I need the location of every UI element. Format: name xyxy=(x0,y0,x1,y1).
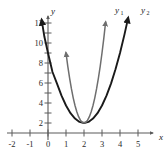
x-axis: -2 -1 0 1 2 3 4 5 x xyxy=(7,130,163,150)
x-tick-label: 3 xyxy=(100,139,104,149)
x-tick-label: 2 xyxy=(82,139,86,149)
parabola-chart: -2 -1 0 1 2 3 4 5 x xyxy=(0,0,167,152)
curve-y2-label-sub: 2 xyxy=(147,10,150,16)
x-tick-label: -2 xyxy=(8,139,15,149)
chart-canvas: -2 -1 0 1 2 3 4 5 x xyxy=(0,0,167,152)
y-tick-label: 4 xyxy=(39,98,44,108)
curve-y1-label-text: y xyxy=(114,5,119,15)
x-tick-label: 4 xyxy=(118,139,123,149)
curve-y1-label: y 1 xyxy=(114,5,124,16)
y-axis-label: y xyxy=(50,6,55,16)
x-tick-label: 0 xyxy=(46,139,50,149)
curve-y1-label-sub: 1 xyxy=(121,10,124,16)
y-tick-label: 10 xyxy=(35,38,44,48)
curve-y2-label: y 2 xyxy=(140,5,150,16)
y-tick-label: 6 xyxy=(39,78,43,88)
x-tick-label: 5 xyxy=(136,139,140,149)
curve-y2-label-text: y xyxy=(140,5,145,15)
x-tick-label: 1 xyxy=(64,139,68,149)
y-tick-label: 2 xyxy=(39,118,43,128)
x-tick-label: -1 xyxy=(26,139,33,149)
x-axis-label: x xyxy=(158,132,163,142)
curve-y2 xyxy=(42,18,128,123)
y-tick-label: 8 xyxy=(39,58,43,68)
